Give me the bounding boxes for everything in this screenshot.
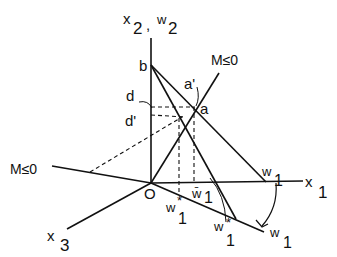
x2-w2-label: x 2 , w 2 [123,10,177,38]
svg-text:,: , [146,16,150,33]
w1-bar-label: w̄ 1 [191,186,213,206]
m-left-label: M≤0 [10,161,37,177]
svg-text:1: 1 [226,232,235,249]
diagram-canvas: x 2 , w 2 b d d' a a' M≤0 M≤0 O x 1 x 3 … [0,0,337,257]
svg-text:*: * [177,193,182,208]
w1-rotated-label: w 1 [269,225,292,251]
rotation-arc [262,183,276,226]
origin-label: O [144,185,156,202]
svg-text:w: w [213,219,224,234]
point-b-label: b [139,57,147,74]
m-left-line [52,166,151,183]
svg-text:w: w [156,12,167,27]
svg-text:1: 1 [204,189,213,206]
point-d-label: d [126,87,134,104]
w1-on-x1-label: w 1 [261,164,283,189]
svg-text:w: w [269,225,280,240]
x1-label: x 1 [305,173,327,202]
w1-star-left-label: w * 1 [165,193,187,227]
svg-text:3: 3 [60,236,69,255]
x3-axis [67,183,151,229]
svg-text:1: 1 [283,234,292,251]
svg-text:w: w [261,164,272,179]
svg-text:w̄: w̄ [191,186,202,201]
arc-a-prime [196,87,198,106]
point-a-prime-label: a' [184,75,195,92]
point-a-label: a [200,100,209,117]
svg-text:x: x [305,173,313,190]
svg-text:x: x [47,227,55,244]
svg-text:1: 1 [274,172,283,189]
svg-text:w: w [165,200,176,215]
m-upper-label: M≤0 [211,52,238,68]
svg-text:*: * [226,215,231,230]
svg-text:1: 1 [178,210,187,227]
w1-star-right-label: w * 1 [213,215,235,249]
point-d-prime-label: d' [125,112,136,129]
svg-text:x: x [123,10,131,27]
x3-label: x 3 [47,227,69,255]
svg-text:2: 2 [168,19,177,38]
svg-text:1: 1 [318,183,327,202]
arc-d [139,102,152,108]
line-b-to-w1 [151,65,266,182]
svg-text:2: 2 [133,19,142,38]
